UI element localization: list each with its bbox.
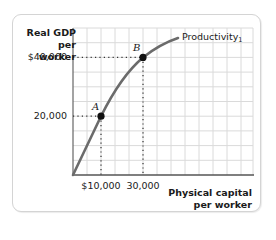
point-a <box>97 113 104 120</box>
curve-label: Productivity1 <box>182 31 242 44</box>
productivity-curve <box>73 38 178 175</box>
x-axis-title: Physical capital per worker <box>142 187 252 211</box>
x-axis-title-line2: per worker <box>142 199 252 211</box>
point-a-label: A <box>92 101 99 112</box>
curve-label-subscript: 1 <box>238 36 242 44</box>
grid <box>73 28 253 175</box>
curve-label-text: Productivity <box>182 31 238 42</box>
y-tick-40000: $40,000 <box>7 51 67 62</box>
point-b-label: B <box>133 42 140 53</box>
x-axis-title-line1: Physical capital <box>142 187 252 199</box>
y-axis-title-line1: Real GDP <box>18 27 76 39</box>
y-tick-20000: 20,000 <box>7 110 67 121</box>
point-b <box>139 54 146 61</box>
